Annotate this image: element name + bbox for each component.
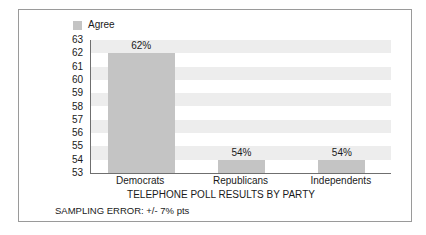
y-axis-tick-labels: 6362616059585756555453 <box>51 40 87 173</box>
bar-independents[interactable] <box>318 160 365 173</box>
bar-democrats[interactable] <box>108 53 175 173</box>
bar-value-label: 54% <box>332 148 352 158</box>
legend-swatch-icon <box>73 21 82 30</box>
y-axis-tick: 57 <box>72 115 83 125</box>
bar-republicans[interactable] <box>218 160 265 173</box>
x-axis-category: Democrats <box>116 176 164 186</box>
y-axis-tick: 61 <box>72 62 83 72</box>
y-axis-tick: 54 <box>72 155 83 165</box>
chart-legend: Agree <box>73 18 115 32</box>
legend-item-label: Agree <box>88 20 115 30</box>
y-axis-tick: 62 <box>72 48 83 58</box>
x-axis-title: TELEPHONE POLL RESULTS BY PARTY <box>51 190 391 200</box>
bar-value-label: 62% <box>131 41 151 51</box>
y-axis-tick: 63 <box>72 35 83 45</box>
y-axis-tick: 58 <box>72 102 83 112</box>
y-axis-tick: 56 <box>72 128 83 138</box>
x-axis-category: Independents <box>311 176 372 186</box>
chart-footnote: SAMPLING ERROR: +/- 7% pts <box>55 206 189 216</box>
x-axis-category: Republicans <box>213 176 268 186</box>
bar-series: 62%54%54% <box>91 40 391 173</box>
x-axis-category-labels: DemocratsRepublicansIndependents <box>90 176 391 189</box>
plot-wrapper: 6362616059585756555453 62%54%54% <box>51 40 391 173</box>
y-axis-tick: 59 <box>72 88 83 98</box>
chart-frame: Agree 6362616059585756555453 62%54%54% D… <box>18 9 412 222</box>
y-axis-tick: 53 <box>72 168 83 178</box>
y-axis-tick: 55 <box>72 141 83 151</box>
bar-value-label: 54% <box>231 148 251 158</box>
plot-area: 62%54%54% <box>90 40 391 174</box>
y-axis-tick: 60 <box>72 75 83 85</box>
